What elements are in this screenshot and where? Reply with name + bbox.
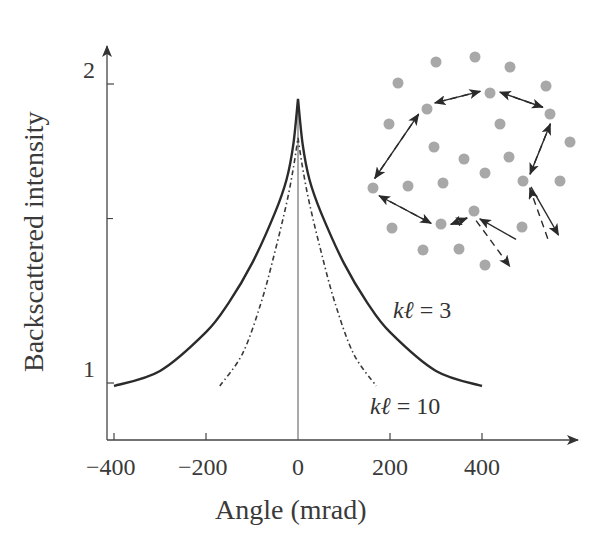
scatterer-dot xyxy=(436,219,447,230)
scatterer-dot xyxy=(518,176,529,187)
series-label-kl10: kℓ = 10 xyxy=(370,394,440,418)
x-tick-label: −200 xyxy=(178,455,228,479)
y-tick-label: 1 xyxy=(83,357,95,381)
scatterer-dot xyxy=(470,52,481,63)
scatterer-dot xyxy=(469,206,480,217)
scatterer-dot xyxy=(504,152,515,163)
scatterer-dot xyxy=(505,62,516,73)
scatterer-dot xyxy=(517,222,528,233)
x-tick-label: −400 xyxy=(86,455,136,479)
scatterer-dot xyxy=(368,183,379,194)
y-axis-title: Backscattered intensity xyxy=(20,112,48,372)
scatterer-dot xyxy=(438,178,449,189)
scatterer-dot xyxy=(403,181,414,192)
scatterer-dot xyxy=(480,168,491,179)
scatterer-dot xyxy=(393,78,404,89)
scatterer-dot xyxy=(429,142,440,153)
y-tick-label: 2 xyxy=(83,58,95,82)
series-label-kl10-symbol: kℓ xyxy=(370,393,391,419)
axes xyxy=(107,46,578,440)
series-label-kl3-value: = 3 xyxy=(420,297,452,323)
reverse-path-arrow xyxy=(530,188,548,239)
series-label-kl3: kℓ = 3 xyxy=(393,298,451,322)
x-axis-title: Angle (mrad) xyxy=(215,496,367,524)
scatterer-dot xyxy=(485,88,496,99)
scatterer-dot xyxy=(565,137,576,148)
scatterer-dot xyxy=(387,223,398,234)
x-tick-label: 400 xyxy=(464,455,500,479)
scatterer-dot xyxy=(541,81,552,92)
scattering-inset xyxy=(368,52,576,271)
scatterer-dot xyxy=(422,104,433,115)
scatterer-dot xyxy=(418,245,429,256)
reverse-path-arrow xyxy=(476,221,510,267)
series-label-kl10-value: = 10 xyxy=(397,393,441,419)
scatterer-dot xyxy=(431,57,442,68)
scatterer-dot xyxy=(545,109,556,120)
scatterer-dot xyxy=(495,119,506,130)
scatterer-dot xyxy=(384,119,395,130)
forward-path-arrow xyxy=(531,187,559,235)
series-label-kl3-symbol: kℓ xyxy=(393,297,414,323)
scatterer-dot xyxy=(555,176,566,187)
forward-path-arrow xyxy=(480,219,516,240)
scatterer-dot xyxy=(454,244,465,255)
backscatter-chart: −400−2000200400 12 Angle (mrad) Backscat… xyxy=(0,0,600,554)
scatterer-dot xyxy=(459,154,470,165)
x-tick-label: 0 xyxy=(292,455,304,479)
scatterer-dot xyxy=(480,260,491,271)
x-tick-label: 200 xyxy=(372,455,408,479)
